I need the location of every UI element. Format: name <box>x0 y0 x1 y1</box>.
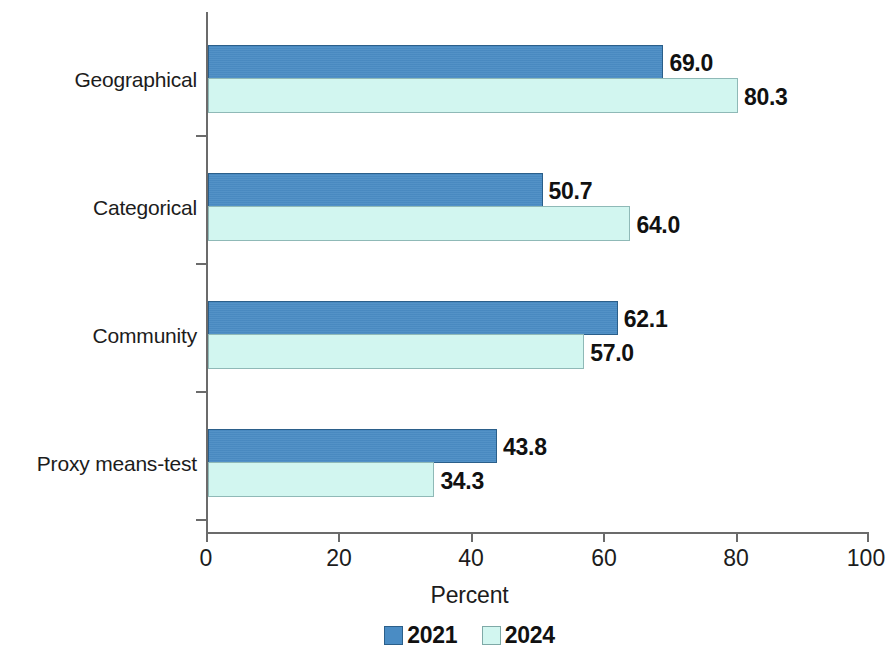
bar-2024-community <box>208 334 584 369</box>
y-axis-tick <box>196 135 207 137</box>
x-axis-title: Percent <box>431 582 509 609</box>
x-tick-label-20: 20 <box>326 545 352 572</box>
x-tick-label-40: 40 <box>458 545 484 572</box>
y-axis-tick <box>196 263 207 265</box>
bar-2021-geographical <box>208 45 663 79</box>
legend-items: 2021 2024 <box>384 620 554 647</box>
value-label-2024-geographical: 80.3 <box>744 84 788 111</box>
x-tick-label-60: 60 <box>591 545 617 572</box>
bar-2021-community <box>208 301 618 335</box>
x-axis-title-wrapper: Percent <box>0 582 891 609</box>
y-axis-tick <box>196 391 207 393</box>
legend-label-2021: 2021 <box>407 622 457 647</box>
value-label-2021-categorical: 50.7 <box>549 178 593 205</box>
x-axis-tick-0 <box>206 532 208 542</box>
legend-label-2024: 2024 <box>505 622 555 647</box>
value-label-2024-community: 57.0 <box>590 340 634 367</box>
y-axis-tick <box>196 519 207 521</box>
category-label-proxy-means-test: Proxy means-test <box>37 452 197 476</box>
bar-chart: Geographical 69.0 80.3 Categorical 50.7 … <box>0 0 891 647</box>
bar-2024-proxy-means-test <box>208 462 434 497</box>
value-label-2024-categorical: 64.0 <box>636 212 680 239</box>
legend: 2021 2024 <box>0 620 891 647</box>
x-axis-tick-80 <box>736 532 738 542</box>
category-label-community: Community <box>93 324 197 348</box>
x-axis-tick-20 <box>338 532 340 542</box>
legend-item-2024[interactable]: 2024 <box>482 621 555 647</box>
category-label-geographical: Geographical <box>74 68 197 92</box>
x-tick-label-0: 0 <box>200 545 213 572</box>
legend-item-2021[interactable]: 2021 <box>384 621 457 647</box>
x-axis-tick-60 <box>603 532 605 542</box>
bar-2021-proxy-means-test <box>208 429 497 463</box>
bar-2024-categorical <box>208 206 630 241</box>
value-label-2024-proxy-means-test: 34.3 <box>440 468 484 495</box>
category-label-categorical: Categorical <box>93 196 197 220</box>
x-tick-label-100: 100 <box>847 545 885 572</box>
value-label-2021-geographical: 69.0 <box>669 50 713 77</box>
bar-2021-categorical <box>208 173 543 207</box>
x-axis-tick-100 <box>867 532 869 542</box>
x-axis-line <box>206 532 869 534</box>
value-label-2021-community: 62.1 <box>624 306 668 333</box>
legend-swatch-2021-icon <box>384 626 403 645</box>
bar-2024-geographical <box>208 78 738 113</box>
x-axis-tick-40 <box>471 532 473 542</box>
value-label-2021-proxy-means-test: 43.8 <box>503 434 547 461</box>
legend-swatch-2024-icon <box>482 626 501 645</box>
x-tick-label-80: 80 <box>723 545 749 572</box>
